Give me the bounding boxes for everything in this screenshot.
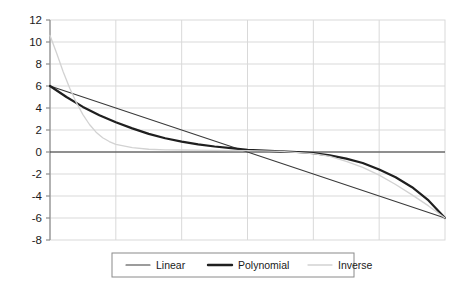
chart-legend: LinearPolynomialInverse <box>112 253 373 277</box>
y-axis-tick-label: 12 <box>29 14 42 26</box>
y-axis-tick-label: -4 <box>32 190 43 202</box>
y-axis-tick-label: -6 <box>32 212 42 224</box>
y-axis-tick-label: -8 <box>32 234 42 246</box>
y-axis-tick-label: 6 <box>36 80 42 92</box>
y-axis-tick-label: 4 <box>36 102 43 114</box>
legend-label-linear: Linear <box>156 259 186 271</box>
y-axis-tick-label: -2 <box>32 168 42 180</box>
line-chart: 121086420-2-4-6-8 LinearPolynomialInvers… <box>0 0 462 290</box>
y-axis-tick-label: 10 <box>29 36 42 48</box>
legend-label-polynomial: Polynomial <box>238 259 289 271</box>
chart-container: 121086420-2-4-6-8 LinearPolynomialInvers… <box>0 0 462 290</box>
legend-label-inverse: Inverse <box>338 259 373 271</box>
y-axis-tick-label: 8 <box>36 58 42 70</box>
y-axis-tick-label: 2 <box>36 124 42 136</box>
y-axis-tick-label: 0 <box>36 146 42 158</box>
chart-background <box>0 0 462 290</box>
